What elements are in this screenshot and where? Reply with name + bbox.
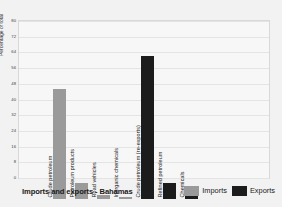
y-tick-label-32: 32 bbox=[2, 113, 16, 117]
bar-series-group: Crude petroleumPetroleum productsRoad ve… bbox=[38, 42, 282, 199]
bar[interactable] bbox=[141, 56, 154, 199]
y-tick-label-48: 48 bbox=[2, 82, 16, 86]
bar-group: Road vehicles bbox=[97, 42, 110, 199]
chart-figure: Crude petroleumPetroleum productsRoad ve… bbox=[0, 0, 282, 207]
y-tick-label-72: 72 bbox=[2, 35, 16, 39]
chart-footer: Imports and exports - Bahamas Imports Ex… bbox=[0, 182, 282, 207]
gridline-80 bbox=[19, 21, 269, 22]
chart-title: Imports and exports - Bahamas bbox=[22, 188, 133, 196]
bar-group: Crude petroleum bbox=[53, 42, 66, 199]
legend-entry-imports[interactable]: Imports bbox=[184, 186, 227, 196]
bar-group: Refined petroleum bbox=[163, 42, 176, 199]
y-tick-label-16: 16 bbox=[2, 145, 16, 149]
y-tick-label-64: 64 bbox=[2, 50, 16, 54]
bar-group: Petroleum products bbox=[75, 42, 88, 199]
plot-area: Crude petroleumPetroleum productsRoad ve… bbox=[18, 20, 270, 179]
legend-label-imports: Imports bbox=[202, 187, 227, 195]
bar-group: Chemicals bbox=[185, 42, 198, 199]
legend-swatch-imports bbox=[184, 186, 199, 196]
y-tick-label-56: 56 bbox=[2, 66, 16, 70]
bar-group: Inorganic chemicals bbox=[119, 42, 132, 199]
gridline-72 bbox=[19, 37, 269, 38]
y-tick-label-24: 24 bbox=[2, 129, 16, 133]
chart-legend: Imports Exports bbox=[184, 186, 275, 196]
y-tick-label-0: 0 bbox=[2, 176, 16, 180]
y-axis-title: Percentage of total bbox=[0, 14, 4, 56]
legend-entry-exports[interactable]: Exports bbox=[232, 186, 275, 196]
bar-group: Crude petroleum (re-exports) bbox=[141, 42, 154, 199]
y-tick-label-8: 8 bbox=[2, 160, 16, 164]
legend-label-exports: Exports bbox=[250, 187, 275, 195]
y-tick-label-40: 40 bbox=[2, 98, 16, 102]
legend-swatch-exports bbox=[232, 186, 247, 196]
y-tick-label-80: 80 bbox=[2, 19, 16, 23]
